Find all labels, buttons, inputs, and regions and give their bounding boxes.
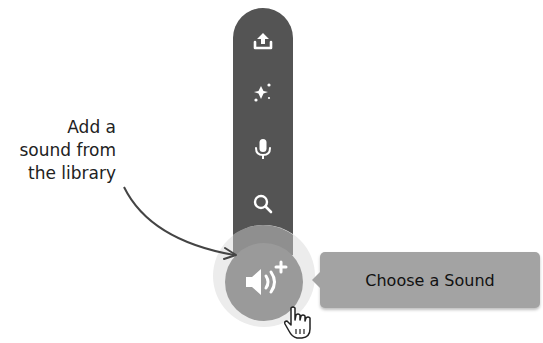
hand-cursor-icon: [283, 305, 313, 341]
annotation-arrow: [0, 0, 543, 343]
